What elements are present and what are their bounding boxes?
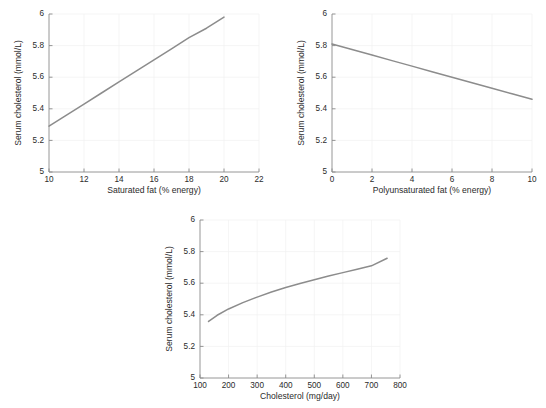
svg-text:5.6: 5.6 xyxy=(33,72,45,81)
gridlines xyxy=(332,14,532,172)
svg-text:14: 14 xyxy=(114,175,124,184)
x-axis-title: Polyunsaturated fat (% energy) xyxy=(373,185,492,195)
axis-ticks: 024681055.25.45.65.86 xyxy=(316,9,537,184)
chart-dietary-cholesterol: 10020030040050060070080055.25.45.65.86Ch… xyxy=(152,202,414,408)
svg-text:600: 600 xyxy=(336,381,350,390)
data-series-line xyxy=(49,17,224,126)
svg-text:6: 6 xyxy=(190,215,195,224)
svg-text:100: 100 xyxy=(193,381,207,390)
axis-spines xyxy=(332,14,532,172)
axis-spines xyxy=(200,220,400,378)
svg-text:20: 20 xyxy=(219,175,229,184)
chart-panel-saturated-fat: 1012141618202255.25.45.65.86Saturated fa… xyxy=(0,0,273,204)
y-axis-title: Serum cholesterol (mmol/L) xyxy=(296,40,306,146)
svg-text:5.4: 5.4 xyxy=(33,104,45,113)
svg-text:800: 800 xyxy=(393,381,407,390)
axis-ticks: 10020030040050060070080055.25.45.65.86 xyxy=(184,215,408,390)
y-axis-title: Serum cholesterol (mmol/L) xyxy=(13,40,23,146)
svg-text:10: 10 xyxy=(527,175,537,184)
axis-ticks: 1012141618202255.25.45.65.86 xyxy=(33,9,264,184)
svg-text:5: 5 xyxy=(190,373,195,382)
svg-text:6: 6 xyxy=(322,9,327,18)
svg-text:500: 500 xyxy=(307,381,321,390)
svg-text:5.8: 5.8 xyxy=(184,247,196,256)
svg-text:5.8: 5.8 xyxy=(33,41,45,50)
svg-text:4: 4 xyxy=(410,175,415,184)
svg-text:10: 10 xyxy=(44,175,54,184)
chart-polyunsaturated-fat: 024681055.25.45.65.86Polyunsaturated fat… xyxy=(288,0,546,204)
svg-text:5.2: 5.2 xyxy=(33,136,45,145)
svg-text:5.4: 5.4 xyxy=(184,310,196,319)
svg-text:200: 200 xyxy=(222,381,236,390)
svg-text:8: 8 xyxy=(490,175,495,184)
figure-panel-grid: 1012141618202255.25.45.65.86Saturated fa… xyxy=(0,0,546,408)
gridlines xyxy=(200,220,400,378)
svg-text:22: 22 xyxy=(254,175,264,184)
y-axis-title: Serum cholesterol (mmol/L) xyxy=(164,246,174,352)
svg-text:5.8: 5.8 xyxy=(316,41,328,50)
chart-panel-polyunsaturated-fat: 024681055.25.45.65.86Polyunsaturated fat… xyxy=(288,0,546,204)
svg-text:300: 300 xyxy=(250,381,264,390)
svg-text:6: 6 xyxy=(39,9,44,18)
x-axis-title: Cholesterol (mg/day) xyxy=(260,391,340,401)
svg-text:0: 0 xyxy=(330,175,335,184)
svg-text:16: 16 xyxy=(149,175,159,184)
svg-text:5.4: 5.4 xyxy=(316,104,328,113)
svg-text:5.2: 5.2 xyxy=(184,342,196,351)
svg-text:12: 12 xyxy=(79,175,89,184)
data-series-line xyxy=(332,44,532,99)
chart-panel-dietary-cholesterol: 10020030040050060070080055.25.45.65.86Ch… xyxy=(152,202,414,408)
svg-text:5: 5 xyxy=(39,167,44,176)
svg-text:18: 18 xyxy=(184,175,194,184)
svg-text:5.6: 5.6 xyxy=(316,72,328,81)
svg-text:400: 400 xyxy=(279,381,293,390)
chart-saturated-fat: 1012141618202255.25.45.65.86Saturated fa… xyxy=(0,0,273,204)
svg-text:5.2: 5.2 xyxy=(316,136,328,145)
svg-text:5: 5 xyxy=(322,167,327,176)
gridlines xyxy=(49,14,259,172)
svg-text:5.6: 5.6 xyxy=(184,278,196,287)
svg-text:2: 2 xyxy=(370,175,375,184)
svg-text:6: 6 xyxy=(450,175,455,184)
svg-text:700: 700 xyxy=(365,381,379,390)
x-axis-title: Saturated fat (% energy) xyxy=(107,185,201,195)
data-series-line xyxy=(209,258,388,321)
